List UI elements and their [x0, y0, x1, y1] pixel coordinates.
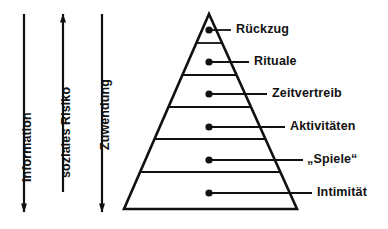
axis-label-zuwendung: Zuwendung	[98, 79, 112, 150]
tier-label-rituale: Rituale	[254, 55, 297, 68]
tier-label-spiele: „Spiele“	[307, 153, 358, 166]
tier-label-aktivitaeten: Aktivitäten	[290, 120, 356, 133]
tier-label-zeitvertreib: Zeitvertreib	[272, 87, 342, 100]
diagram-canvas: Information soziales Risiko Zuwendung Rü…	[0, 0, 388, 229]
tier-bullet-dot-rituale	[205, 58, 212, 65]
tier-bullet-dot-aktivitaeten	[205, 123, 212, 130]
axis-label-information: Information	[20, 112, 34, 182]
tier-bullet-dot-zeitvertreib	[205, 90, 212, 97]
tier-label-rueckzug: Rückzug	[236, 23, 289, 36]
tier-bullet-dot-intimitaet	[205, 189, 212, 196]
tier-label-intimitaet: Intimität	[317, 186, 367, 199]
tier-bullet-dot-rueckzug	[205, 26, 212, 33]
tier-leader-group	[205, 26, 312, 196]
axis-label-soziales-risiko: soziales Risiko	[59, 87, 73, 178]
tier-bullet-dot-spiele	[205, 156, 212, 163]
